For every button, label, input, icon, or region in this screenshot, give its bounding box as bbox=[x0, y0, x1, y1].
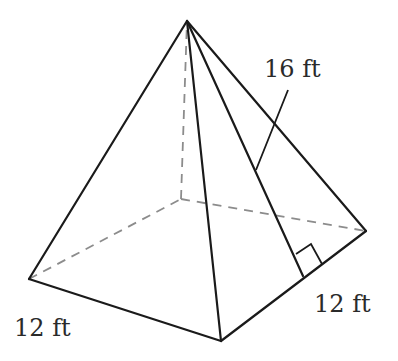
lateral-edge-right bbox=[187, 21, 366, 231]
hidden-lateral-edge bbox=[181, 21, 187, 199]
slant-height-label: 16 ft bbox=[264, 57, 321, 81]
right-angle-marker bbox=[296, 244, 322, 264]
lateral-edge-left bbox=[29, 21, 187, 279]
base-left-edge-label: 12 ft bbox=[14, 316, 71, 340]
slant-label-leader-line bbox=[256, 90, 288, 170]
lateral-edge-front bbox=[187, 21, 221, 341]
base-edge-front-right bbox=[221, 231, 366, 341]
base-right-edge-label: 12 ft bbox=[314, 292, 371, 316]
hidden-base-edge-left bbox=[29, 199, 181, 279]
